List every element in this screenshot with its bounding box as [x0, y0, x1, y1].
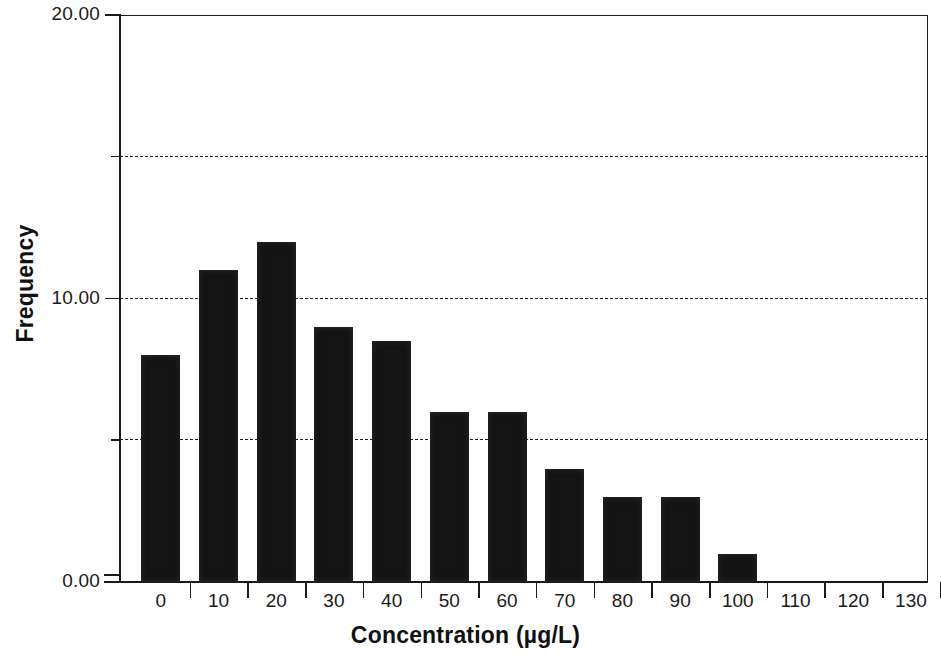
x-axis-tick-label: 20 [246, 590, 306, 612]
x-axis-tick-label: 80 [592, 590, 652, 612]
x-axis-tick-label: 100 [708, 590, 768, 612]
y-axis-minor-tick [111, 439, 121, 441]
bar [141, 355, 180, 582]
y-axis-tick-label: 0.00 [0, 570, 100, 592]
x-axis-tick-label: 110 [766, 590, 826, 612]
x-axis-tick-label: 60 [477, 590, 537, 612]
bar [199, 270, 238, 582]
y-axis-minor-tick [111, 156, 121, 158]
x-axis-tick-label: 30 [304, 590, 364, 612]
x-axis-tick-label: 0 [131, 590, 191, 612]
x-axis-tick-label: 40 [362, 590, 422, 612]
bar [372, 341, 411, 582]
bar [718, 554, 757, 582]
bar [603, 497, 642, 582]
y-axis-tick [105, 298, 121, 300]
x-axis-tick-label: 50 [419, 590, 479, 612]
bar [488, 412, 527, 582]
y-axis-title: Frequency [12, 174, 39, 394]
x-axis-tick-label: 10 [189, 590, 249, 612]
x-axis-tick-label: 130 [881, 590, 941, 612]
bar [545, 469, 584, 582]
bar [430, 412, 469, 582]
x-axis-tick-label: 90 [650, 590, 710, 612]
y-axis-tick-label: 20.00 [0, 3, 100, 25]
bar [661, 497, 700, 582]
gridline [120, 298, 928, 299]
bar [257, 242, 296, 582]
x-axis-tick-label: 120 [823, 590, 883, 612]
x-axis-origin-tick [104, 574, 120, 576]
x-axis-tick-label: 70 [535, 590, 595, 612]
x-axis-title: Concentration (µg/L) [0, 622, 931, 649]
y-axis-tick [105, 581, 121, 583]
gridline [120, 156, 928, 157]
bar [314, 327, 353, 582]
y-axis-tick [105, 14, 121, 16]
